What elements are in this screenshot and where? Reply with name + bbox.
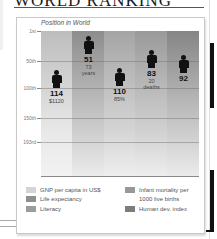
y-tick-150th: 150th bbox=[23, 115, 36, 121]
legend-swatch bbox=[26, 206, 36, 212]
legend-swatch bbox=[26, 196, 36, 202]
legend-label: GNP per capita in US$ bbox=[40, 187, 101, 194]
y-tick-193rd: 193rd bbox=[23, 139, 36, 145]
rank-note-unit: deaths bbox=[136, 84, 167, 90]
page-rule-2 bbox=[0, 226, 16, 227]
rank-note: $1120 bbox=[41, 98, 72, 104]
legend-swatch bbox=[125, 187, 135, 193]
person-icon bbox=[147, 50, 157, 68]
legend-label: Infant mortality per bbox=[139, 187, 189, 194]
page-edge-line bbox=[0, 0, 3, 50]
column-literacy bbox=[104, 31, 136, 177]
person-icon bbox=[52, 70, 62, 88]
page-rule-1 bbox=[0, 220, 16, 221]
title-rule bbox=[14, 7, 204, 8]
legend-swatch bbox=[26, 187, 36, 193]
rank-note-unit: years bbox=[73, 70, 104, 76]
legend-label-line2: 1000 live births bbox=[139, 196, 179, 203]
side-bar-upper bbox=[210, 43, 214, 108]
legend-label: Literacy bbox=[40, 206, 61, 213]
legend-swatch bbox=[125, 206, 135, 212]
y-tick-100th: 100th bbox=[23, 85, 36, 91]
person-icon bbox=[84, 36, 94, 54]
person-icon bbox=[179, 55, 189, 73]
side-bar-lower bbox=[210, 170, 214, 232]
rank-value: 51 bbox=[73, 55, 104, 64]
column-human-dev-index bbox=[167, 31, 199, 177]
legend-label: Human dev. index bbox=[139, 206, 187, 213]
marker-life-expectancy: 51 73 years bbox=[73, 36, 104, 76]
rank-value: 110 bbox=[104, 87, 135, 96]
marker-gnp: 114 $1120 bbox=[41, 70, 72, 104]
y-tick-50th: 50th bbox=[26, 58, 36, 64]
page-title: WORLD RANKING bbox=[14, 0, 172, 11]
y-tick-1st: 1st bbox=[29, 28, 36, 34]
marker-literacy: 110 85% bbox=[104, 68, 135, 102]
gridline-193rd bbox=[41, 142, 199, 143]
marker-infant-mortality: 83 20 deaths bbox=[136, 50, 167, 90]
rank-value: 83 bbox=[136, 69, 167, 78]
side-bar-foot bbox=[206, 230, 214, 232]
rank-value: 114 bbox=[41, 89, 72, 98]
x-axis-line bbox=[41, 176, 199, 177]
column-gnp bbox=[41, 31, 73, 177]
rank-value: 92 bbox=[168, 74, 199, 83]
rank-note: 85% bbox=[104, 96, 135, 102]
chart-subtitle: Position in World bbox=[41, 19, 90, 26]
gridline-150th bbox=[41, 118, 199, 119]
chart-plot-area: 114 $1120 51 73 years 110 85% 83 20 deat… bbox=[41, 31, 199, 177]
marker-human-dev-index: 92 bbox=[168, 55, 199, 83]
person-icon bbox=[115, 68, 125, 86]
legend-label: Life expectancy bbox=[40, 196, 82, 203]
